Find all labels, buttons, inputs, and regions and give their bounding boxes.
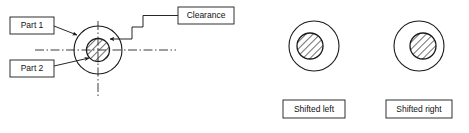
part1-label-text: Part 1 — [21, 20, 44, 30]
diagram-canvas: Part 1 Part 2 Clearance Shifted left — [0, 0, 469, 133]
shifted-left-inner-circle-hatched — [297, 33, 323, 59]
part2-inner-circle-hatched — [87, 39, 110, 62]
shifted-left-label-text: Shifted left — [294, 104, 335, 114]
shifted-right-label-text: Shifted right — [396, 104, 442, 114]
shifted-right-inner-circle-hatched — [410, 33, 436, 59]
clearance-label-text: Clearance — [187, 10, 226, 20]
part2-label-text: Part 2 — [21, 63, 44, 73]
technical-drawing-svg: Part 1 Part 2 Clearance Shifted left — [0, 0, 469, 133]
